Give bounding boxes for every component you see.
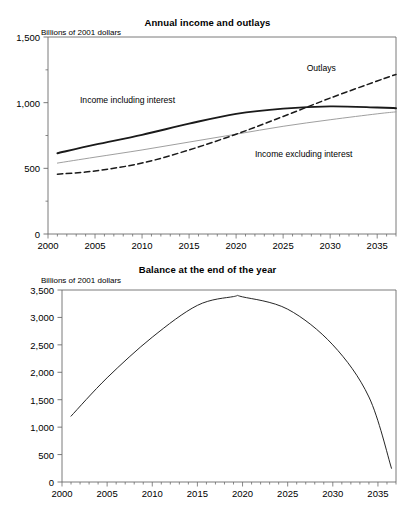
- x-tick-label: 2005: [97, 488, 118, 499]
- x-tick-label: 2025: [277, 488, 298, 499]
- x-tick-label: 2030: [322, 488, 343, 499]
- chart-frame: [48, 37, 396, 234]
- y-tick-label: 1,000: [30, 422, 54, 433]
- x-tick-label: 2000: [51, 488, 72, 499]
- x-tick-label: 2035: [367, 240, 388, 251]
- y-tick-label: 3,500: [30, 285, 54, 296]
- y-tick-label: 2,000: [30, 367, 54, 378]
- chart1-svg: [0, 33, 415, 243]
- chart-balance-at-end-of-year: Balance at the end of the year Billions …: [0, 258, 415, 505]
- series-label: Income excluding interest: [255, 149, 352, 159]
- x-tick-label: 2035: [367, 488, 388, 499]
- x-tick-label: 2025: [273, 240, 294, 251]
- x-tick-label: 2030: [320, 240, 341, 251]
- y-tick-label: 3,000: [30, 312, 54, 323]
- y-tick-label: 500: [24, 163, 40, 174]
- x-tick-label: 2010: [142, 488, 163, 499]
- series-label: Outlays: [307, 63, 336, 73]
- x-tick-label: 2020: [232, 488, 253, 499]
- chart1-title: Annual income and outlays: [0, 17, 415, 28]
- chart-frame: [62, 290, 396, 482]
- x-tick-label: 2015: [187, 488, 208, 499]
- series-line: [57, 106, 396, 153]
- chart2-title: Balance at the end of the year: [0, 264, 415, 275]
- x-tick-label: 2020: [226, 240, 247, 251]
- chart2-svg: [0, 286, 415, 491]
- x-tick-label: 2015: [179, 240, 200, 251]
- chart-annual-income-and-outlays: Annual income and outlays Billions of 20…: [0, 0, 415, 258]
- y-tick-label: 500: [38, 449, 54, 460]
- x-tick-label: 2010: [131, 240, 152, 251]
- y-tick-label: 2,500: [30, 339, 54, 350]
- chart2-plot-area: 05001,0001,5002,0002,5003,0003,500200020…: [0, 286, 415, 491]
- y-tick-label: 1,000: [16, 97, 40, 108]
- series-line: [71, 295, 391, 468]
- x-tick-label: 2005: [84, 240, 105, 251]
- y-tick-label: 1,500: [16, 32, 40, 43]
- y-tick-label: 0: [35, 229, 40, 240]
- series-line: [57, 74, 396, 174]
- x-tick-label: 2000: [37, 240, 58, 251]
- chart1-plot-area: 05001,0001,50020002005201020152020202520…: [0, 33, 415, 243]
- y-tick-label: 0: [49, 477, 54, 488]
- series-label: Income including interest: [80, 95, 175, 105]
- y-tick-label: 1,500: [30, 394, 54, 405]
